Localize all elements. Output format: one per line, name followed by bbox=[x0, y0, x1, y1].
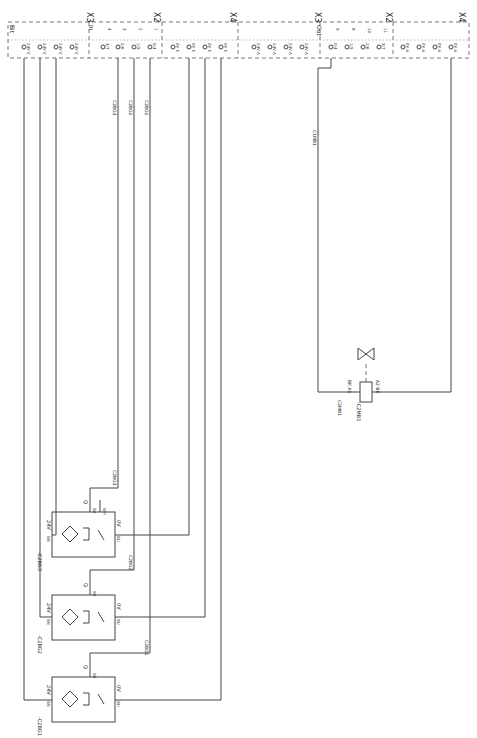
pin-number: 10 bbox=[367, 28, 372, 34]
terminal-pin bbox=[187, 45, 191, 49]
pin-label: 0V E bbox=[223, 43, 228, 53]
wire-label: C2BG3 bbox=[112, 100, 117, 116]
output-label: Q bbox=[83, 500, 89, 504]
section-label: Out bbox=[316, 25, 323, 37]
terminal-pin bbox=[361, 45, 365, 49]
pin-label: 0/4 bbox=[152, 43, 157, 50]
pin-label: 0V E bbox=[191, 43, 196, 53]
pin-label: 1/5 bbox=[349, 43, 354, 50]
pin-color: BN bbox=[46, 701, 51, 707]
pin-label: 24V A bbox=[256, 43, 261, 55]
pin-color: BN bbox=[46, 536, 51, 542]
pin-color: BU bbox=[116, 619, 121, 625]
pin-label: 24V E bbox=[74, 43, 79, 55]
wire-label: C2BG2 bbox=[128, 100, 133, 116]
terminal-pin bbox=[171, 45, 175, 49]
pin-number: 1 bbox=[154, 28, 159, 31]
pin-color: BU bbox=[116, 701, 121, 707]
valve-tag: -C2MB1 bbox=[356, 402, 362, 421]
gnd-label: 0V bbox=[116, 520, 122, 527]
terminal-pin bbox=[38, 45, 42, 49]
valve-pin: A2 BK bbox=[375, 380, 380, 394]
connector-label: X2 bbox=[152, 12, 161, 23]
pin-label: 0/4 bbox=[333, 43, 338, 50]
sensor-tag: -C2BG1 bbox=[37, 717, 43, 736]
pin-color: BK bbox=[92, 508, 97, 514]
terminal-pin bbox=[329, 45, 333, 49]
pin-label: 24V A bbox=[272, 43, 277, 55]
terminal-pin bbox=[132, 45, 136, 49]
test-pin: WH bbox=[102, 508, 107, 515]
pin-label: 24V A bbox=[304, 43, 309, 55]
pin-label: 24V A bbox=[288, 43, 293, 55]
terminal-pin bbox=[417, 45, 421, 49]
pin-label: 24V E bbox=[42, 43, 47, 55]
pin-number: 11 bbox=[383, 28, 388, 34]
terminal-pin bbox=[252, 45, 256, 49]
terminal-pin bbox=[401, 45, 405, 49]
wire-label: C2BG2 bbox=[128, 555, 133, 571]
pin-label: 0V E bbox=[207, 43, 212, 53]
pin-label: 0V A bbox=[453, 43, 458, 53]
pin-label: 0V A bbox=[437, 43, 442, 53]
pin-label: 1/5 bbox=[136, 43, 141, 50]
supply-label: 24V bbox=[46, 685, 52, 695]
terminal-pin bbox=[70, 45, 74, 49]
connector-label: X4 bbox=[457, 12, 466, 23]
terminal-pin bbox=[284, 45, 288, 49]
pin-label: 3/7 bbox=[105, 43, 110, 50]
wire-label: C2BG1 bbox=[144, 640, 149, 656]
pin-number: 8 bbox=[351, 28, 356, 31]
sensor-c2bg2 bbox=[52, 595, 115, 640]
terminal-pin bbox=[433, 45, 437, 49]
terminal-pin bbox=[101, 45, 105, 49]
pin-label: 3/7 bbox=[381, 43, 386, 50]
terminal-pin bbox=[219, 45, 223, 49]
terminal-pin bbox=[377, 45, 381, 49]
connector-label: X3 bbox=[313, 12, 322, 23]
schematic-canvas: X3BitX2InX4X3X2OutX4 24V E24V E24V E24V … bbox=[0, 0, 477, 738]
wire-label: C1MB1 bbox=[312, 130, 317, 146]
pin-label: 0V A bbox=[421, 43, 426, 53]
wire-label: C2BG3 bbox=[112, 470, 117, 486]
output-label: Q bbox=[83, 583, 89, 587]
terminal-pin bbox=[345, 45, 349, 49]
sensor-tag: -C2BG3 bbox=[37, 552, 43, 571]
sensor-c2bg1 bbox=[52, 677, 115, 722]
pin-label: 0V E bbox=[175, 43, 180, 53]
supply-label: 24V bbox=[46, 520, 52, 530]
terminal-pin bbox=[300, 45, 304, 49]
output-label: Q bbox=[83, 665, 89, 669]
terminal-pin bbox=[449, 45, 453, 49]
pin-label: 0V A bbox=[405, 43, 410, 53]
section-label: Bit bbox=[9, 25, 16, 34]
terminal-pin bbox=[203, 45, 207, 49]
sensor-tag: -C2BG2 bbox=[37, 635, 43, 654]
pin-label: 2/6 bbox=[365, 43, 370, 50]
pin-number: 2 bbox=[138, 28, 143, 31]
connector-label: X4 bbox=[228, 12, 237, 23]
terminal-pin bbox=[148, 45, 152, 49]
pin-color: BK bbox=[92, 673, 97, 679]
pin-label: 24V E bbox=[26, 43, 31, 55]
terminal-pin bbox=[22, 45, 26, 49]
connector-label: X2 bbox=[384, 12, 393, 23]
connector-label: X3 bbox=[85, 12, 94, 23]
pin-color: BK bbox=[92, 591, 97, 597]
valve-pin: BK A1 bbox=[347, 380, 352, 394]
pin-label: 24V E bbox=[58, 43, 63, 55]
sensor-c2bg3 bbox=[52, 512, 115, 557]
terminal-pin bbox=[54, 45, 58, 49]
wire-label: C2MB1 bbox=[337, 400, 342, 416]
wire-label: C2BG1 bbox=[144, 100, 149, 116]
gnd-label: 0V bbox=[116, 603, 122, 610]
pin-number: 4 bbox=[107, 28, 112, 31]
pin-label: 2/6 bbox=[120, 43, 125, 50]
supply-label: 24V bbox=[46, 603, 52, 613]
wires bbox=[24, 58, 451, 700]
pin-number: 9 bbox=[335, 28, 340, 31]
pin-color: BU bbox=[116, 536, 121, 542]
pin-color: BN bbox=[46, 619, 51, 625]
section-label: In bbox=[88, 25, 95, 31]
pin-number: 3 bbox=[122, 28, 127, 31]
